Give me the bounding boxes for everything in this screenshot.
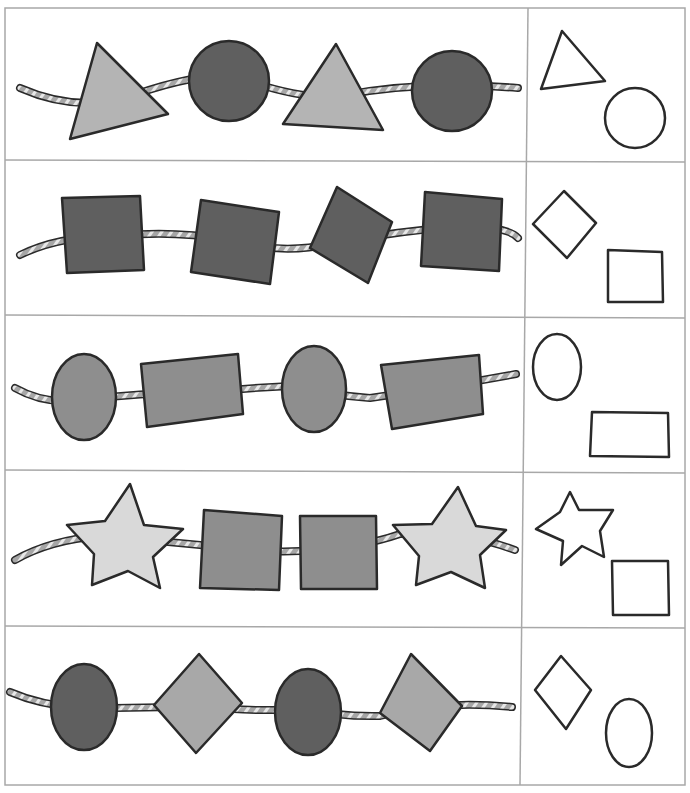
- star-option[interactable]: [536, 492, 613, 565]
- square-bead: [62, 196, 144, 273]
- answer-options-row-5: [535, 656, 652, 767]
- circle-bead: [189, 41, 269, 121]
- answer-options-row-1: [541, 31, 665, 148]
- oval-bead: [282, 346, 346, 432]
- oval-option[interactable]: [533, 334, 581, 400]
- answer-options-row-3: [533, 334, 669, 457]
- circle-bead: [412, 51, 492, 131]
- diamond-option[interactable]: [533, 191, 596, 258]
- pattern-row-2: [20, 187, 518, 284]
- diamond-bead: [310, 187, 392, 283]
- pattern-row-3: [15, 346, 516, 440]
- pattern-worksheet: Pattern sequences - what comes next: [0, 0, 690, 793]
- diamond-option[interactable]: [535, 656, 591, 729]
- square-bead: [191, 200, 279, 284]
- answer-options-row-2: [533, 191, 663, 302]
- diamond-bead: [154, 654, 242, 753]
- square-option[interactable]: [612, 561, 669, 615]
- rectangle-option[interactable]: [590, 412, 669, 457]
- answer-options-row-4: [536, 492, 669, 615]
- oval-bead: [275, 669, 341, 755]
- rectangle-bead: [381, 355, 483, 429]
- rectangle-bead: [141, 354, 243, 427]
- square-bead: [300, 516, 377, 589]
- oval-option[interactable]: [606, 699, 652, 767]
- triangle-option[interactable]: [541, 31, 605, 89]
- pattern-row-5: [10, 654, 512, 755]
- pattern-row-4: [15, 484, 515, 590]
- star-bead: [67, 484, 183, 588]
- triangle-bead: [283, 44, 383, 130]
- oval-bead: [51, 664, 117, 750]
- pattern-row-1: [20, 41, 518, 139]
- diamond-bead: [380, 654, 462, 751]
- square-bead: [421, 192, 502, 271]
- oval-bead: [52, 354, 116, 440]
- square-option[interactable]: [608, 250, 663, 302]
- star-bead: [393, 487, 506, 588]
- square-bead: [200, 510, 282, 590]
- circle-option[interactable]: [605, 88, 665, 148]
